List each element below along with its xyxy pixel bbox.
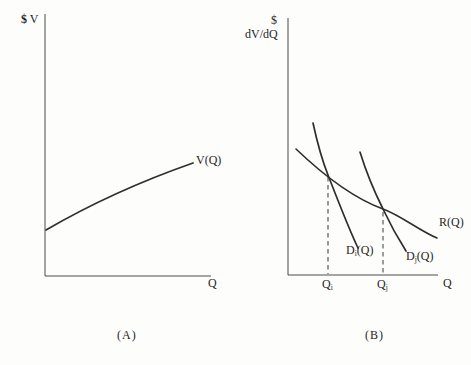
panel-b-x-axis-label: Q bbox=[443, 277, 452, 290]
qj-tick-sub: j bbox=[386, 283, 388, 292]
qi-tick-label: Qi bbox=[322, 278, 333, 291]
panel-b-dollar-sign: $ bbox=[271, 14, 277, 27]
panel-a-x-axis-label: Q bbox=[208, 277, 217, 290]
panel-a-v-letter: V bbox=[30, 12, 39, 26]
panel-b-plot bbox=[288, 18, 438, 275]
panel-a-dollar-sign: $ bbox=[21, 12, 27, 26]
dj-label-paren: (Q) bbox=[417, 249, 434, 263]
panel-a-y-axis-label: $ V bbox=[21, 13, 38, 26]
di-label-base: D bbox=[346, 243, 355, 257]
qi-tick-sub: i bbox=[331, 283, 333, 292]
panel-a-plot bbox=[45, 14, 211, 276]
panel-a-caption: (A) bbox=[117, 329, 137, 342]
v-curve bbox=[46, 163, 193, 230]
v-curve-label: V(Q) bbox=[196, 154, 221, 167]
qj-tick-base: Q bbox=[377, 277, 386, 291]
panel-b-y-axis-label: dV/dQ bbox=[245, 28, 278, 41]
qj-tick-label: Qj bbox=[377, 278, 388, 291]
dj-label-base: D bbox=[406, 249, 415, 263]
panel-b-caption: (B) bbox=[365, 329, 384, 342]
qi-tick-base: Q bbox=[322, 277, 331, 291]
di-curve-label: Di(Q) bbox=[346, 244, 373, 257]
figure-canvas: $ V V(Q) Q (A) $ dV/dQ R(Q) Di(Q) Dj(Q) … bbox=[0, 0, 471, 365]
r-curve bbox=[296, 149, 437, 238]
di-label-paren: (Q) bbox=[357, 243, 374, 257]
r-curve-label: R(Q) bbox=[439, 216, 464, 229]
di-curve bbox=[313, 123, 358, 248]
figure-plot-svg bbox=[0, 0, 471, 365]
dj-curve-label: Dj(Q) bbox=[406, 250, 433, 263]
